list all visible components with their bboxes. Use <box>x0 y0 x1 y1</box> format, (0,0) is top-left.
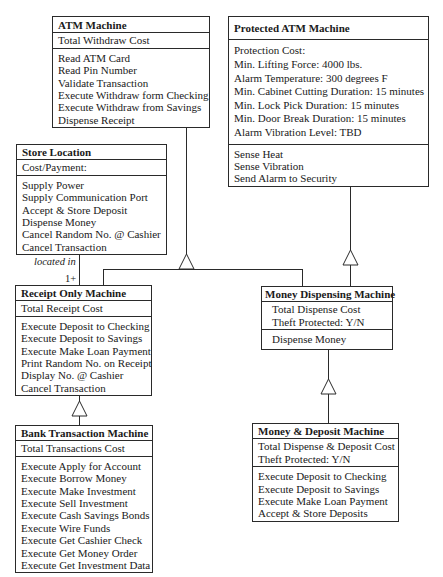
class-name: ATM Machine <box>53 17 209 33</box>
attribute: Alarm Temperature: 300 degrees F <box>234 72 423 86</box>
operation: Read Pin Number <box>58 64 204 76</box>
operation: Execute Get Money Order <box>21 547 147 559</box>
operation: Execute Deposit to Checking <box>21 320 146 332</box>
class-store-location: Store Location Cost/Payment: Supply Powe… <box>16 144 167 255</box>
operations-section: Sense Heat Sense Vibration Send Alarm to… <box>229 144 428 186</box>
operation: Sense Heat <box>234 148 423 160</box>
operation: Read ATM Card <box>58 52 204 64</box>
class-money-deposit-machine: Money & Deposit Machine Total Dispense &… <box>252 423 399 522</box>
operation: Execute Deposit to Savings <box>21 332 146 344</box>
operation: Dispense Receipt <box>58 114 204 126</box>
operation: Cancel Transaction <box>22 241 161 253</box>
attribute: Total Transactions Cost <box>21 442 147 454</box>
operation: Validate Transaction <box>58 77 204 89</box>
class-atm-machine: ATM Machine Total Withdraw Cost Read ATM… <box>52 16 210 128</box>
operation: Print Random No. on Receipt <box>21 357 146 369</box>
operation: Execute Make Investment <box>21 485 147 497</box>
operations-section: Execute Deposit to Checking Execute Depo… <box>16 316 151 395</box>
attribute: Total Dispense & Deposit Cost <box>258 440 393 452</box>
operation: Execute Withdraw from Savings <box>58 101 204 113</box>
operation: Accept & Store Deposit <box>22 204 161 216</box>
operation: Execute Borrow Money <box>21 472 147 484</box>
operation: Display No. @ Cashier <box>21 369 146 381</box>
class-name: Store Location <box>17 145 166 160</box>
operation: Sense Vibration <box>234 160 423 172</box>
operation: Send Alarm to Security <box>234 172 423 184</box>
operation: Execute Deposit to Savings <box>258 483 393 495</box>
class-receipt-only-machine: Receipt Only Machine Total Receipt Cost … <box>15 285 152 396</box>
attributes-section: Total Transactions Cost <box>16 441 152 455</box>
operation: Accept & Store Deposits <box>258 507 393 519</box>
attribute: Min. Lock Pick Duration: 15 minutes <box>234 99 423 113</box>
operation: Supply Power <box>22 179 161 191</box>
operation: Execute Deposit to Checking <box>258 470 393 482</box>
receipt-generalization-triangle-icon <box>72 401 87 416</box>
operation: Execute Wire Funds <box>21 522 147 534</box>
attribute: Theft Protected: Y/N <box>272 316 387 328</box>
attribute: Theft Protected: Y/N <box>258 453 393 465</box>
attribute: Min. Lifting Force: 4000 lbs. <box>234 58 423 72</box>
attributes-section: Total Withdraw Cost <box>53 33 209 47</box>
attributes-section: Protection Cost: Min. Lifting Force: 400… <box>229 40 428 143</box>
atm-generalization-triangle-icon <box>179 254 194 269</box>
operations-section: Execute Deposit to Checking Execute Depo… <box>253 466 398 521</box>
operation: Execute Make Loan Payment <box>258 495 393 507</box>
attribute: Min. Door Break Duration: 15 minutes <box>234 112 423 126</box>
operation: Dispense Money <box>22 216 161 228</box>
operation: Execute Make Loan Payment <box>21 345 146 357</box>
operation: Execute Sell Investment <box>21 497 147 509</box>
operation: Execute Get Investment Data <box>21 559 147 571</box>
operations-section: Dispense Money <box>262 329 392 348</box>
attribute: Alarm Vibration Level: TBD <box>234 126 423 140</box>
class-name: Protected ATM Machine <box>229 17 428 40</box>
attributes-section: Total Dispense Cost Theft Protected: Y/N <box>262 302 392 329</box>
operation: Supply Communication Port <box>22 191 161 203</box>
dispensing-generalization-triangle-icon <box>321 379 336 394</box>
operation: Execute Apply for Account <box>21 460 147 472</box>
association-label-located-in: located in <box>34 256 76 267</box>
operation: Cancel Transaction <box>21 382 146 394</box>
attributes-section: Total Dispense & Deposit Cost Theft Prot… <box>253 439 398 466</box>
protected-generalization-triangle-icon <box>343 250 358 265</box>
attribute: Total Dispense Cost <box>272 303 387 315</box>
attribute: Total Receipt Cost <box>21 302 146 314</box>
class-bank-transaction-machine: Bank Transaction Machine Total Transacti… <box>15 425 153 573</box>
class-name: Money & Deposit Machine <box>253 424 398 439</box>
multiplicity-label: 1+ <box>65 273 76 284</box>
class-name: Receipt Only Machine <box>16 286 151 301</box>
attribute: Protection Cost: <box>234 44 423 58</box>
attribute: Total Withdraw Cost <box>58 34 204 46</box>
attributes-section: Total Receipt Cost <box>16 301 151 315</box>
attribute: Cost/Payment: <box>22 161 161 173</box>
class-money-dispensing-machine: Money Dispensing Machine Total Dispense … <box>261 286 393 350</box>
operations-section: Supply Power Supply Communication Port A… <box>17 175 166 254</box>
class-name: Money Dispensing Machine <box>262 287 392 302</box>
attribute: Min. Cabinet Cutting Duration: 15 minute… <box>234 85 423 99</box>
operation: Execute Cash Savings Bonds <box>21 509 147 521</box>
class-name: Bank Transaction Machine <box>16 426 152 441</box>
operation: Dispense Money <box>272 333 387 345</box>
operations-section: Read ATM Card Read Pin Number Validate T… <box>53 48 209 127</box>
operation: Execute Withdraw form Checking <box>58 89 204 101</box>
attributes-section: Cost/Payment: <box>17 160 166 174</box>
class-protected-atm-machine: Protected ATM Machine Protection Cost: M… <box>228 16 429 187</box>
operation: Cancel Random No. @ Cashier <box>22 228 161 240</box>
operations-section: Execute Apply for Account Execute Borrow… <box>16 456 152 573</box>
operation: Execute Get Cashier Check <box>21 534 147 546</box>
